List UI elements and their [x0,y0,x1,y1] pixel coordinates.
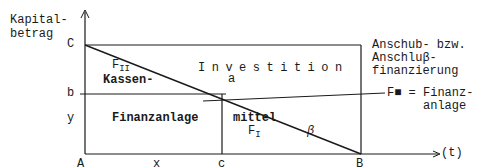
point-a-origin: A [77,158,84,168]
point-c-upper: C [67,38,74,51]
diagram-lines [0,0,481,168]
point-b-upper: B [356,158,363,168]
fm-label-2: anlage [423,100,466,113]
fm-pointer-line [203,93,385,101]
x-axis-label: (t) [441,147,463,160]
angle-beta: β [307,125,314,138]
region-kassen: Kassen- [103,74,153,87]
region-investition: Investition [198,62,349,75]
region-f2: FII [112,59,130,73]
region-f1: FI [248,125,261,139]
point-x: x [153,158,160,168]
point-b-lower: b [67,87,74,100]
y-axis-label-1: Kapital- [10,14,68,27]
point-y: y [67,112,74,125]
point-c-lower: c [218,158,225,168]
y-axis-label-2: betrag [10,28,53,41]
anschub-label-3: finanzierung [372,65,458,78]
region-finanzanlage: Finanzanlage [112,112,198,125]
